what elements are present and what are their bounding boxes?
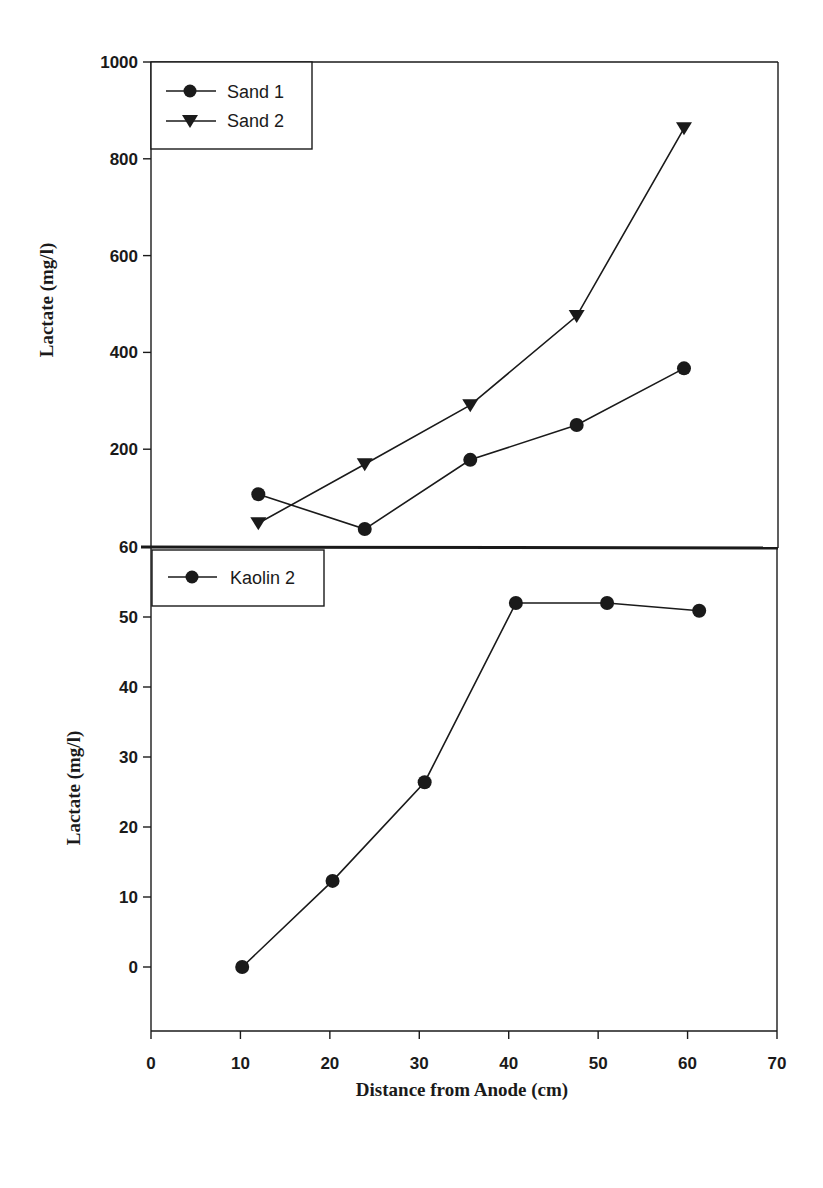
x-tick-label: 0 [146, 1054, 155, 1073]
top-y-tick-label: 800 [110, 150, 138, 169]
circle-marker-icon [358, 522, 372, 536]
series-line-sand-1 [258, 368, 684, 529]
circle-marker-icon [251, 487, 265, 501]
bottom-series-layer [235, 596, 706, 974]
bottom-y-tick-label: 20 [119, 818, 138, 837]
circle-marker-icon [326, 874, 340, 888]
bottom-y-ticks: 0102030405060 [119, 538, 151, 977]
chart-canvas: 2004006008001000 Lactate (mg/l) Sand 1 S… [0, 0, 823, 1188]
bottom-y-tick-label: 0 [129, 958, 138, 977]
circle-marker-icon [570, 418, 584, 432]
series-line-kaolin-2 [242, 603, 699, 967]
top-y-tick-label: 400 [110, 343, 138, 362]
circle-marker-icon [186, 571, 199, 584]
legend-label-kaolin-2: Kaolin 2 [230, 568, 295, 588]
circle-marker-icon [418, 775, 432, 789]
bottom-plot: 0102030405060 010203040506070 Lactate (m… [63, 538, 786, 1101]
top-y-tick-label: 600 [110, 247, 138, 266]
x-tick-label: 10 [231, 1054, 250, 1073]
bottom-y-axis-title: Lactate (mg/l) [63, 731, 85, 845]
bottom-y-tick-label: 30 [119, 748, 138, 767]
circle-marker-icon [600, 596, 614, 610]
top-y-tick-label: 1000 [100, 53, 138, 72]
triangle-down-marker-icon [676, 122, 692, 135]
top-y-axis-title: Lactate (mg/l) [36, 243, 58, 357]
triangle-down-marker-icon [357, 458, 373, 471]
circle-marker-icon [692, 604, 706, 618]
circle-marker-icon [677, 361, 691, 375]
bottom-y-tick-label: 60 [119, 538, 138, 557]
x-tick-label: 60 [678, 1054, 697, 1073]
triangle-down-marker-icon [462, 399, 478, 412]
legend-label-sand-1: Sand 1 [227, 82, 284, 102]
plot-separator-line [141, 547, 778, 548]
x-tick-label: 50 [589, 1054, 608, 1073]
bottom-legend: Kaolin 2 [152, 550, 324, 606]
circle-marker-icon [235, 960, 249, 974]
x-tick-label: 40 [499, 1054, 518, 1073]
legend-label-sand-2: Sand 2 [227, 111, 284, 131]
x-tick-label: 30 [410, 1054, 429, 1073]
top-plot: 2004006008001000 Lactate (mg/l) Sand 1 S… [36, 53, 778, 548]
bottom-y-tick-label: 40 [119, 678, 138, 697]
top-legend: Sand 1 Sand 2 [151, 62, 312, 149]
bottom-y-tick-label: 10 [119, 888, 138, 907]
top-y-tick-label: 200 [110, 440, 138, 459]
top-legend-box [151, 62, 312, 149]
x-tick-label: 20 [320, 1054, 339, 1073]
top-y-ticks: 2004006008001000 [100, 53, 151, 459]
x-axis-title: Distance from Anode (cm) [356, 1079, 568, 1101]
top-series-layer [250, 122, 692, 536]
circle-marker-icon [184, 85, 197, 98]
circle-marker-icon [509, 596, 523, 610]
triangle-down-marker-icon [250, 517, 266, 530]
circle-marker-icon [463, 453, 477, 467]
x-tick-label: 70 [768, 1054, 787, 1073]
bottom-x-ticks: 010203040506070 [146, 1031, 786, 1073]
bottom-y-tick-label: 50 [119, 608, 138, 627]
